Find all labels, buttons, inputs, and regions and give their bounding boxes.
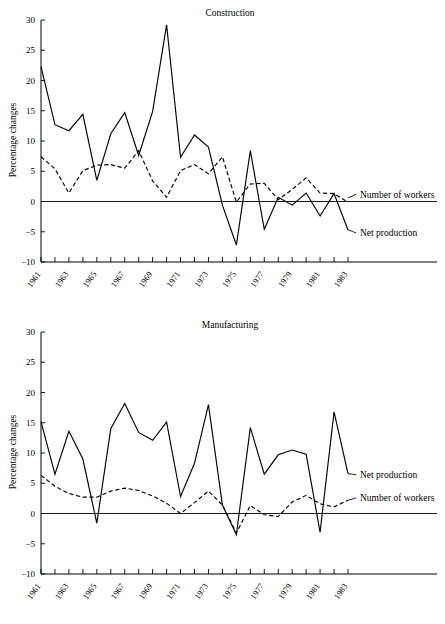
annotation-leader-line [348, 498, 356, 500]
x-tick-label: 1973 [192, 581, 210, 601]
x-tick-label: 1965 [81, 269, 99, 289]
x-tick-label: 1967 [108, 269, 126, 289]
series-annotation-label: Number of workers [360, 493, 435, 503]
series-annotation-label: Net production [360, 228, 418, 238]
x-tick-label: 1961 [25, 581, 43, 601]
y-tick-label: 15 [26, 106, 36, 116]
x-axis-group: 1961196319651967196919711973197519771979… [25, 569, 437, 601]
manufacturing-plot: Manufacturing Percentage changes −10−505… [8, 320, 437, 601]
x-tick-label: 1969 [136, 269, 154, 289]
series-annotation-label: Number of workers [360, 190, 435, 200]
y-tick-label: −5 [25, 539, 35, 549]
y-tick-label: 10 [26, 136, 36, 146]
annotation-leader-line [348, 230, 356, 233]
series-group [41, 25, 437, 245]
y-tick-label: 15 [26, 418, 36, 428]
figure-page: Construction Percentage changes −10−5051… [0, 0, 445, 624]
x-tick-label: 1969 [136, 581, 154, 601]
x-tick-label: 1981 [304, 581, 322, 601]
x-tick-label: 1979 [276, 269, 294, 289]
y-tick-label: 5 [31, 478, 36, 488]
y-tick-label: −10 [21, 569, 36, 579]
x-tick-label: 1981 [304, 269, 322, 289]
x-tick-label: 1961 [25, 269, 43, 289]
chart-title: Manufacturing [202, 320, 259, 330]
manufacturing-chart-svg: Manufacturing Percentage changes −10−505… [0, 312, 445, 624]
y-tick-label: 25 [26, 357, 36, 367]
y-tick-label: 0 [31, 509, 36, 519]
series-line-net-production [41, 25, 348, 245]
y-tick-label: −5 [25, 227, 35, 237]
annotation-leader-line [348, 194, 356, 198]
construction-chart-svg: Construction Percentage changes −10−5051… [0, 0, 445, 312]
x-tick-label: 1977 [248, 581, 266, 601]
y-axis-label: Percentage changes [8, 102, 18, 177]
x-axis-group: 1961196319651967196919711973197519771979… [25, 257, 437, 289]
annotation-group: Number of workersNet production [348, 190, 435, 239]
series-group [41, 403, 437, 534]
x-tick-label: 1977 [248, 269, 266, 289]
x-tick-label: 1983 [332, 269, 350, 289]
x-tick-label: 1963 [53, 269, 71, 289]
y-tick-label: 10 [26, 448, 36, 458]
y-tick-label: 20 [26, 76, 36, 86]
x-tick-label: 1975 [220, 269, 238, 289]
x-tick-label: 1967 [108, 581, 126, 601]
y-tick-label: 20 [26, 388, 36, 398]
y-tick-label: −10 [21, 257, 36, 267]
y-axis-label: Percentage changes [8, 414, 18, 489]
x-tick-label: 1983 [332, 581, 350, 601]
x-tick-label: 1963 [53, 581, 71, 601]
series-annotation-label: Net production [360, 470, 418, 480]
x-tick-label: 1965 [81, 581, 99, 601]
y-axis-group: −10−5051015202530 [21, 327, 45, 579]
y-tick-label: 0 [31, 197, 36, 207]
x-tick-label: 1971 [164, 581, 182, 601]
y-tick-label: 30 [26, 15, 36, 25]
x-tick-label: 1971 [164, 269, 182, 289]
chart-panel-construction: Construction Percentage changes −10−5051… [0, 0, 445, 312]
y-axis-group: −10−5051015202530 [21, 15, 45, 267]
x-tick-label: 1973 [192, 269, 210, 289]
construction-plot: Construction Percentage changes −10−5051… [8, 8, 437, 289]
annotation-leader-line [348, 474, 356, 475]
y-tick-label: 30 [26, 327, 36, 337]
annotation-group: Net productionNumber of workers [348, 470, 435, 503]
y-tick-label: 5 [31, 166, 36, 176]
chart-title: Construction [205, 8, 254, 18]
x-tick-label: 1975 [220, 581, 238, 601]
series-line-number-of-workers [41, 475, 348, 532]
y-tick-label: 25 [26, 45, 36, 55]
chart-panel-manufacturing: Manufacturing Percentage changes −10−505… [0, 312, 445, 624]
x-tick-label: 1979 [276, 581, 294, 601]
series-line-number-of-workers [41, 151, 348, 202]
series-line-net-production [41, 403, 348, 534]
